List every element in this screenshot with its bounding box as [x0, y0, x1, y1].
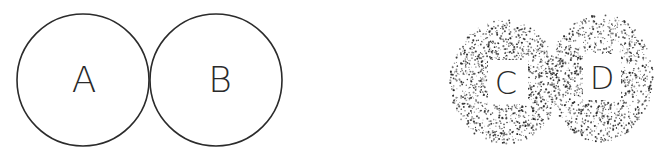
label-d: D [590, 59, 615, 97]
circles-svg: A B [0, 0, 300, 159]
stipple-svg: C D [440, 0, 662, 159]
label-c: C [495, 64, 517, 102]
stipple-diagram: C D [440, 0, 662, 159]
label-a: A [72, 59, 97, 100]
stipple-dots [449, 15, 653, 145]
circles-diagram: A B [0, 0, 300, 159]
label-b: B [208, 59, 232, 100]
